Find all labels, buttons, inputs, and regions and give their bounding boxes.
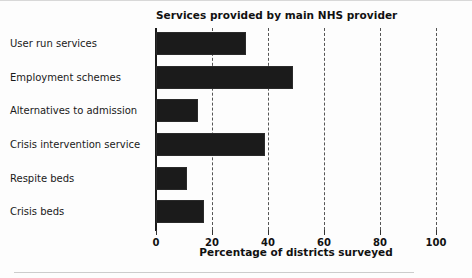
chart-figure: Services provided by main NHS provider 0… xyxy=(0,0,472,278)
bar-row xyxy=(156,62,436,96)
page-rule-bottom xyxy=(14,272,414,273)
bar-respite-beds xyxy=(156,167,187,190)
plot-area xyxy=(156,28,436,230)
chart-title: Services provided by main NHS provider xyxy=(156,9,446,21)
bar-row xyxy=(156,129,436,163)
category-label-crisis-beds: Crisis beds xyxy=(10,206,150,217)
bar-employment-schemes xyxy=(156,66,293,89)
page-rule-top xyxy=(0,0,472,1)
category-label-respite-beds: Respite beds xyxy=(10,173,150,184)
bar-crisis-intervention-service xyxy=(156,133,265,156)
category-label-crisis-intervention-service: Crisis intervention service xyxy=(10,139,150,150)
bar-row xyxy=(156,95,436,129)
bar-row xyxy=(156,28,436,62)
x-axis-title: Percentage of districts surveyed xyxy=(156,246,436,258)
bar-user-run-services xyxy=(156,32,246,55)
x-tick-60 xyxy=(324,230,325,235)
category-label-user-run-services: User run services xyxy=(10,38,150,49)
x-tick-0 xyxy=(156,230,157,235)
x-tick-40 xyxy=(268,230,269,235)
bar-row xyxy=(156,196,436,230)
category-label-alternatives-to-admission: Alternatives to admission xyxy=(10,105,150,116)
bar-row xyxy=(156,163,436,197)
gridline-100 xyxy=(436,28,437,230)
x-tick-20 xyxy=(212,230,213,235)
x-tick-80 xyxy=(380,230,381,235)
x-tick-100 xyxy=(436,230,437,235)
bar-crisis-beds xyxy=(156,200,204,223)
bar-alternatives-to-admission xyxy=(156,99,198,122)
category-label-employment-schemes: Employment schemes xyxy=(10,72,150,83)
